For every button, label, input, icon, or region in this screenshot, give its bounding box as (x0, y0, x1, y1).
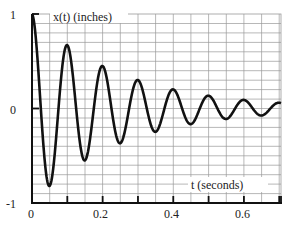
y-tick-label-0: 0 (10, 103, 16, 117)
damped-oscillation-chart: x(t) (inches) t (seconds) 1 0 -1 0 0.2 0… (0, 0, 295, 232)
y-axis-label: x(t) (inches) (53, 10, 112, 24)
y-tick-label-neg1: -1 (6, 197, 16, 211)
grid-lines (32, 14, 281, 203)
x-tick-label-0: 0 (28, 207, 34, 221)
y-tick-label-1: 1 (10, 8, 16, 22)
x-axis-label: t (seconds) (191, 178, 243, 192)
x-tick-label-0.4: 0.4 (164, 207, 179, 221)
x-tick-label-0.6: 0.6 (235, 207, 250, 221)
x-tick-label-0.2: 0.2 (93, 207, 108, 221)
